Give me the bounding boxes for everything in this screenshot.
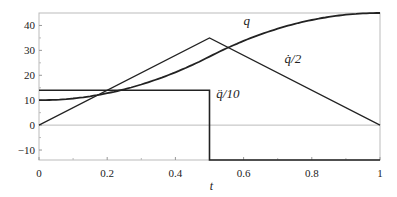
curve-labels: qq̇/2q̈/10 <box>216 13 301 100</box>
curves <box>39 13 380 160</box>
y-tick-label: 0 <box>30 119 36 131</box>
x-tick-label: 0 <box>36 167 42 179</box>
axes: 00.20.40.60.81−10010203040t <box>18 13 383 193</box>
x-tick-label: 0.4 <box>169 167 183 179</box>
y-tick-label: 30 <box>24 44 36 56</box>
chart: 00.20.40.60.81−10010203040t qq̇/2q̈/10 <box>0 0 397 197</box>
label-q-dot-over-2: q̇/2 <box>285 51 302 66</box>
x-tick-label: 0.6 <box>237 167 251 179</box>
x-axis-title: t <box>210 179 214 193</box>
x-tick-label: 1 <box>377 167 383 179</box>
label-q-ddot-over-10: q̈/10 <box>216 86 240 101</box>
y-tick-label: −10 <box>18 144 36 156</box>
label-q: q <box>244 13 251 28</box>
y-tick-label: 10 <box>24 94 36 106</box>
curve-q <box>39 13 380 100</box>
y-tick-label: 40 <box>24 19 36 31</box>
x-tick-label: 0.8 <box>305 167 319 179</box>
y-tick-label: 20 <box>24 69 36 81</box>
x-tick-label: 0.2 <box>100 167 114 179</box>
